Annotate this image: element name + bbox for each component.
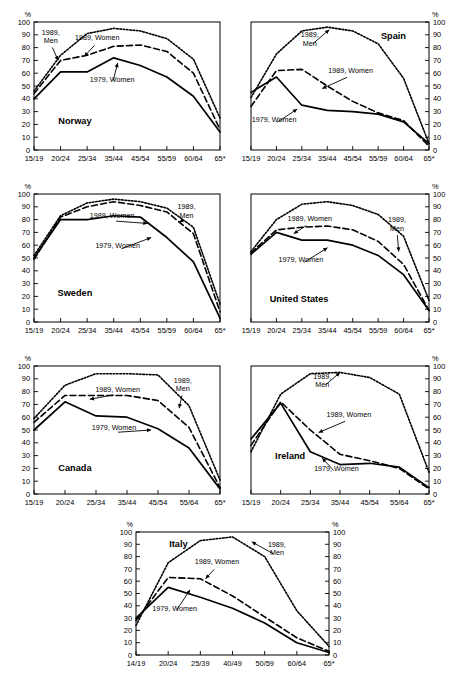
y-tick-label: 40 (22, 438, 30, 447)
annotation-label: 1989, Women (75, 33, 120, 42)
annotation-1979-women: 1979, Women (252, 109, 297, 124)
chart-italy: 0010102020303040405050606070708080909010… (110, 516, 355, 679)
annotation-1989-women: 1989, Women (322, 66, 373, 88)
y-tick-label: 80 (333, 552, 341, 561)
x-tick-label: 65* (214, 498, 225, 507)
chart-sweden: 0102030405060708090100%15/1920/2425/3435… (8, 178, 230, 346)
series-line-1989-women (34, 395, 220, 487)
annotation-arrowhead (293, 109, 298, 113)
annotation-label: 1989,Men (174, 376, 192, 394)
x-tick-label: 20/24 (51, 326, 70, 335)
annotation-label: 1989,Men (313, 372, 331, 390)
plot-frame (251, 366, 429, 494)
x-tick-label: 55/59 (158, 326, 177, 335)
annotation-1979-women: 1979, Women (92, 423, 152, 432)
y-tick-label: 20 (433, 464, 441, 473)
y-tick-label: 30 (433, 279, 441, 288)
y-tick-label: 70 (333, 565, 341, 574)
y-tick-label: 40 (433, 438, 441, 447)
annotation-label: 1989, Women (195, 557, 240, 566)
panel-title: Sweden (58, 288, 93, 298)
x-tick-label: 35/44 (331, 498, 350, 507)
y-tick-label: 10 (433, 133, 441, 142)
chart-united-states: 0102030405060708090100%15/1920/2425/3435… (237, 178, 455, 346)
annotation-1989-men: 1989,Men (42, 28, 60, 61)
y-tick-label: 80 (433, 43, 441, 52)
annotation-label: 1979, Women (252, 115, 297, 124)
annotation-label: 1979, Women (152, 604, 197, 613)
annotation-1989-women: 1989, Women (90, 211, 148, 225)
x-tick-label: 15/19 (242, 326, 261, 335)
y-tick-label: 40 (124, 601, 132, 610)
y-tick-label: 10 (124, 638, 132, 647)
x-tick-label: 45/54 (149, 498, 168, 507)
y-tick-label: 10 (22, 305, 30, 314)
y-axis-unit-label: % (332, 520, 339, 529)
annotation-label: 1989,Men (388, 215, 406, 233)
x-tick-label: 65* (423, 154, 434, 163)
y-tick-label: 40 (433, 266, 441, 275)
y-tick-label: 70 (22, 228, 30, 237)
panel-title: Ireland (275, 451, 305, 461)
annotation-label: 1989,Men (268, 540, 286, 558)
y-tick-label: 20 (22, 292, 30, 301)
y-tick-label: 90 (333, 540, 341, 549)
annotation-label: 1979, Women (314, 464, 359, 473)
y-tick-label: 30 (333, 614, 341, 623)
annotation-leader-line (116, 221, 147, 223)
annotation-label: 1989,Men (301, 30, 319, 48)
annotation-1989-women: 1989, Women (195, 557, 240, 579)
y-tick-label: 80 (433, 215, 441, 224)
panel-spain: 0102030405060708090100%15/1920/2425/3435… (237, 6, 455, 174)
y-tick-label: 10 (22, 133, 30, 142)
annotation-label: 1979, Women (279, 255, 324, 264)
y-axis-unit-label: % (432, 354, 439, 363)
y-tick-label: 10 (22, 477, 30, 486)
annotation-1989-women: 1989, Women (90, 385, 140, 401)
annotation-label: 1989, Women (95, 385, 140, 394)
y-tick-label: 10 (433, 305, 441, 314)
y-tick-label: 90 (433, 202, 441, 211)
y-tick-label: 80 (433, 387, 441, 396)
x-tick-label: 55/64 (390, 498, 409, 507)
x-tick-label: 45/54 (131, 154, 150, 163)
x-tick-label: 45/54 (131, 326, 150, 335)
x-tick-label: 15/19 (25, 326, 44, 335)
x-tick-label: 60/64 (288, 659, 307, 668)
y-tick-label: 70 (22, 400, 30, 409)
x-tick-label: 20/24 (267, 154, 286, 163)
y-tick-label: 30 (124, 614, 132, 623)
y-tick-label: 40 (333, 601, 341, 610)
annotation-label: 1989, Women (287, 214, 332, 223)
y-tick-label: 80 (22, 387, 30, 396)
y-tick-label: 60 (433, 241, 441, 250)
y-axis-unit-label: % (24, 182, 31, 191)
panel-title: Spain (381, 31, 406, 41)
panel-title: Canada (58, 463, 92, 473)
x-tick-label: 25/39 (191, 659, 210, 668)
y-tick-label: 90 (124, 540, 132, 549)
y-tick-label: 60 (124, 577, 132, 586)
x-tick-label: 60/64 (394, 154, 413, 163)
y-tick-label: 90 (433, 374, 441, 383)
y-tick-label: 90 (22, 202, 30, 211)
y-tick-label: 90 (22, 374, 30, 383)
x-tick-label: 35/44 (318, 154, 337, 163)
annotation-1989-women: 1989, Women (287, 214, 332, 234)
panel-title: Norway (58, 116, 92, 126)
panel-united-states: 0102030405060708090100%15/1920/2425/3435… (237, 178, 455, 346)
x-tick-label: 20/24 (271, 498, 290, 507)
x-tick-label: 60/64 (394, 326, 413, 335)
y-tick-label: 20 (433, 292, 441, 301)
y-tick-label: 40 (433, 94, 441, 103)
x-tick-label: 65* (423, 326, 434, 335)
y-axis-unit-label: % (432, 10, 439, 19)
y-tick-label: 40 (22, 94, 30, 103)
series-line-1989-men (251, 27, 429, 143)
y-tick-label: 90 (433, 30, 441, 39)
y-tick-label: 60 (22, 241, 30, 250)
chart-norway: 0102030405060708090100%15/1920/2425/3435… (8, 6, 230, 174)
annotation-label: 1979, Women (90, 75, 135, 84)
y-axis-unit-label: % (126, 520, 133, 529)
y-tick-label: 60 (22, 413, 30, 422)
